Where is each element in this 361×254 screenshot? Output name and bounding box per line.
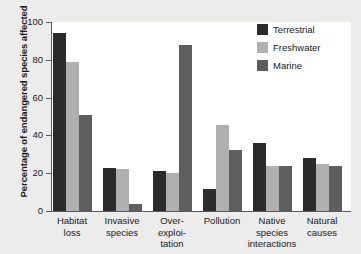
y-axis-tick-label: 20 — [13, 168, 43, 178]
bar — [79, 115, 92, 211]
bar — [153, 171, 166, 211]
y-axis-tick — [46, 173, 51, 174]
legend-swatch — [257, 42, 268, 53]
bar — [129, 204, 142, 211]
legend-item: Marine — [257, 56, 321, 74]
bar — [303, 158, 316, 211]
bar — [53, 33, 66, 211]
y-axis-tick — [46, 98, 51, 99]
bar — [279, 166, 292, 211]
bar-group — [53, 22, 92, 211]
y-axis-tick-label: 100 — [13, 17, 43, 27]
legend-item: Freshwater — [257, 38, 321, 56]
bar — [166, 173, 179, 211]
x-axis-category-label: Naturalcauses — [287, 215, 357, 238]
y-axis-tick — [46, 60, 51, 61]
bar — [316, 164, 329, 211]
bar-group — [153, 22, 192, 211]
bar — [116, 169, 129, 211]
x-axis-label-line: exploi- — [137, 227, 207, 239]
x-axis-label-line: tation — [137, 238, 207, 250]
y-axis-tick — [46, 22, 51, 23]
x-axis-label-line: Natural — [287, 215, 357, 227]
bar — [66, 62, 79, 211]
legend-swatch — [257, 24, 268, 35]
x-axis-label-line: interactions — [237, 238, 307, 250]
bar — [266, 166, 279, 211]
bar — [229, 150, 242, 211]
y-axis-tick-label: 60 — [13, 93, 43, 103]
x-axis-line — [51, 211, 351, 212]
x-axis-label-line: causes — [287, 227, 357, 239]
bar — [203, 189, 216, 211]
bar-group — [103, 22, 142, 211]
bar — [179, 45, 192, 211]
bar — [216, 125, 229, 211]
bar-chart-figure: Percentage of endangered species affecte… — [0, 0, 361, 254]
legend-item: Terrestrial — [257, 20, 321, 38]
bar — [329, 166, 342, 211]
bar — [253, 143, 266, 211]
bar — [103, 168, 116, 211]
y-axis-tick-label: 40 — [13, 130, 43, 140]
legend: TerrestrialFreshwaterMarine — [257, 20, 321, 74]
legend-label: Marine — [273, 60, 302, 71]
y-axis-tick — [46, 135, 51, 136]
legend-swatch — [257, 60, 268, 71]
y-axis-tick — [46, 211, 51, 212]
y-axis-tick-label: 80 — [13, 55, 43, 65]
legend-label: Terrestrial — [273, 24, 315, 35]
legend-label: Freshwater — [273, 42, 321, 53]
bar-group — [203, 22, 242, 211]
